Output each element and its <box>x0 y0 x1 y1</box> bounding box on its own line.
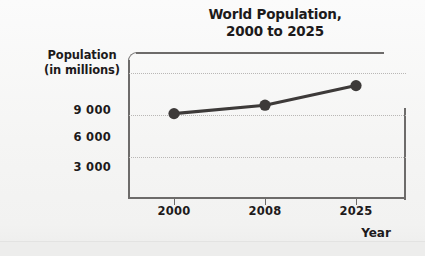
x-tick-label-2008: 2008 <box>235 204 295 218</box>
population-line-series <box>128 52 406 199</box>
y-tick-label-3000: 3 000 <box>21 160 111 174</box>
page-bottom-band <box>0 241 425 256</box>
y-tick-label-9000: 9 000 <box>21 103 111 117</box>
chart-title-line-2: 2000 to 2025 <box>150 23 400 40</box>
data-point-2000 <box>168 108 179 119</box>
y-axis-title-line-1: Population <box>18 48 146 63</box>
chart-title-line-1: World Population, <box>150 6 400 23</box>
data-point-2008 <box>259 100 270 111</box>
x-tick-label-2000: 2000 <box>144 204 204 218</box>
plot-area <box>128 52 406 199</box>
x-axis-title: Year <box>346 226 406 240</box>
chart-page: World Population, 2000 to 2025 Populatio… <box>0 0 425 256</box>
y-tick-label-6000: 6 000 <box>21 130 111 144</box>
y-axis-title-line-2: (in millions) <box>18 63 146 78</box>
data-point-2025 <box>350 80 361 91</box>
chart-title: World Population, 2000 to 2025 <box>150 6 400 40</box>
x-tick-label-2025: 2025 <box>326 204 386 218</box>
y-axis-title: Population (in millions) <box>18 48 146 78</box>
